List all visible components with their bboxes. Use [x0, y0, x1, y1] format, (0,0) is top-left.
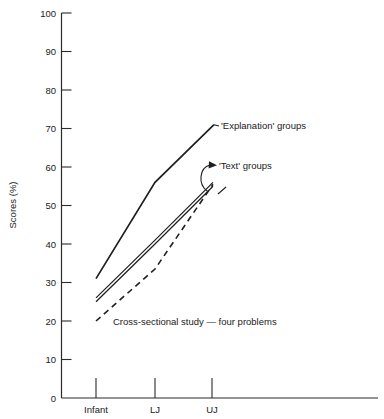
y-axis-ticks — [62, 13, 72, 360]
y-tick-label-50: 50 — [45, 200, 56, 211]
y-tick-label-80: 80 — [45, 85, 56, 96]
series-line-text-groups-lower — [96, 186, 213, 301]
y-tick-label-20: 20 — [45, 316, 56, 327]
annotation-explanation-groups: 'Explanation' groups — [221, 120, 306, 131]
x-tick-label-uj: UJ — [206, 404, 218, 415]
y-axis-tick-labels: 100 90 80 70 60 50 40 30 20 10 0 — [40, 8, 56, 404]
y-tick-label-90: 90 — [45, 46, 56, 57]
y-tick-label-60: 60 — [45, 162, 56, 173]
explanation-leader — [214, 125, 219, 126]
cross-sectional-leader — [218, 187, 226, 194]
x-axis-tick-labels: Infant LJ UJ — [84, 404, 218, 415]
cross-sectional-leader-line — [218, 187, 226, 194]
y-tick-label-40: 40 — [45, 239, 56, 250]
y-tick-label-10: 10 — [45, 354, 56, 365]
x-tick-label-lj: LJ — [150, 404, 160, 415]
annotation-cross-sectional: Cross-sectional study — four problems — [113, 316, 277, 327]
text-groups-arrow-head — [209, 161, 217, 168]
x-tick-label-infant: Infant — [84, 404, 108, 415]
line-chart-figure: 100 90 80 70 60 50 40 30 20 10 0 Scores … — [0, 0, 384, 419]
series-line-cross-sectional — [96, 184, 213, 321]
y-axis-title: Scores (%) — [7, 182, 18, 229]
annotation-text-groups: 'Text' groups — [219, 160, 272, 171]
y-tick-label-30: 30 — [45, 277, 56, 288]
series-line-text-groups-upper — [96, 182, 213, 298]
y-tick-label-0: 0 — [51, 393, 56, 404]
x-axis-ticks — [96, 378, 212, 398]
chart-canvas: 100 90 80 70 60 50 40 30 20 10 0 Scores … — [0, 0, 384, 419]
y-tick-label-100: 100 — [40, 8, 56, 19]
series-line-explanation-groups — [96, 125, 214, 279]
explanation-leader-line — [214, 125, 219, 126]
y-tick-label-70: 70 — [45, 123, 56, 134]
